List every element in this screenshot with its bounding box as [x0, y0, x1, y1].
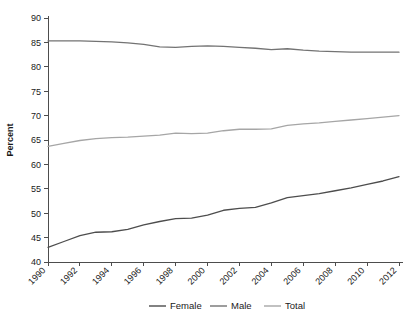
x-tick-label: 1992 [58, 265, 79, 286]
x-tick-label: 2008 [313, 265, 334, 286]
y-tick-label: 60 [31, 160, 41, 170]
x-tick-label: 1996 [122, 265, 143, 286]
line-chart: 4045505560657075808590 19901992199419961… [0, 0, 413, 321]
x-tick-label: 2004 [250, 265, 271, 286]
x-tick-label: 2006 [281, 265, 302, 286]
legend-label-total: Total [285, 300, 305, 311]
series-lines [48, 41, 399, 247]
y-tick-label: 75 [31, 87, 41, 97]
y-axis-title-label: Percent [5, 123, 15, 156]
y-tick-label: 55 [31, 184, 41, 194]
chart-legend: FemaleMaleTotal [149, 300, 305, 311]
x-tick-label: 1998 [154, 265, 175, 286]
legend-label-male: Male [231, 300, 252, 311]
x-axis: 1990199219941996199820002002200420062008… [26, 262, 403, 287]
x-tick-label: 2012 [377, 265, 398, 286]
x-tick-label: 2000 [186, 265, 207, 286]
x-tick-label: 1994 [90, 265, 111, 286]
y-tick-label: 50 [31, 209, 41, 219]
series-line-total [48, 116, 399, 147]
y-tick-label: 70 [31, 111, 41, 121]
series-line-male [48, 41, 399, 52]
y-tick-label: 90 [31, 13, 41, 23]
x-tick-label: 2010 [345, 265, 366, 286]
x-tick-label: 2002 [218, 265, 239, 286]
y-axis-title: Percent [5, 123, 15, 156]
y-tick-label: 65 [31, 135, 41, 145]
y-tick-label: 45 [31, 233, 41, 243]
y-tick-label: 80 [31, 62, 41, 72]
x-tick-label: 1990 [26, 265, 47, 286]
chart-canvas: 4045505560657075808590 19901992199419961… [0, 0, 413, 321]
series-line-female [48, 177, 399, 248]
y-tick-label: 85 [31, 38, 41, 48]
y-axis: 4045505560657075808590 [31, 13, 48, 267]
legend-label-female: Female [170, 300, 202, 311]
